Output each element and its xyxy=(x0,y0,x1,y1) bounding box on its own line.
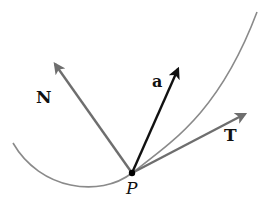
point-p-label: P xyxy=(125,178,138,198)
point-p-dot xyxy=(129,170,135,176)
tangent-vector-label: T xyxy=(224,125,237,145)
normal-vector-label: N xyxy=(36,87,52,107)
curve-vector-diagram: N a T P xyxy=(0,0,270,211)
acceleration-vector-label: a xyxy=(152,72,162,91)
normal-vector-arrow xyxy=(55,64,132,173)
